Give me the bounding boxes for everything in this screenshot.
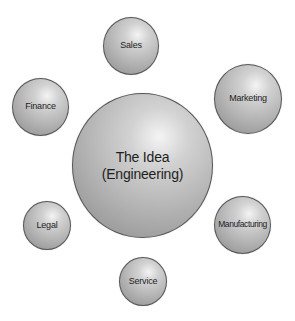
node-finance: Finance <box>12 78 69 136</box>
node-marketing: Marketing <box>214 64 282 134</box>
node-label: Legal <box>36 221 57 231</box>
node-label: Manufacturing <box>218 220 267 229</box>
center-node-the-idea: The Idea (Engineering) <box>72 93 213 238</box>
node-manufacturing: Manufacturing <box>214 196 271 254</box>
node-label: Finance <box>25 102 56 112</box>
node-service: Service <box>119 257 167 306</box>
node-label: Marketing <box>229 94 267 104</box>
node-legal: Legal <box>23 201 71 250</box>
center-node-label: The Idea (Engineering) <box>102 149 183 183</box>
node-label: Sales <box>120 41 142 51</box>
node-sales: Sales <box>103 17 159 75</box>
node-label: Service <box>129 277 158 287</box>
